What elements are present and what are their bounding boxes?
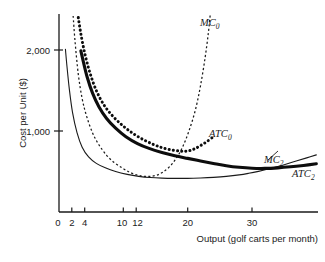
x-tick-label-10: 10 [117, 217, 128, 228]
curve-atc0 [78, 18, 213, 152]
y-axis-title: Cost per Unit ($) [17, 78, 28, 148]
x-tick-label-0: 0 [55, 217, 60, 228]
cost-curves-chart: 2,000 1,000 0 2 4 10 12 20 30 Cost per U… [0, 0, 325, 262]
x-tick-label-20: 20 [182, 217, 193, 228]
x-tick-label-30: 30 [247, 217, 258, 228]
x-axis-title: Output (golf carts per month) [197, 233, 318, 244]
chart-svg: 2,000 1,000 0 2 4 10 12 20 30 Cost per U… [0, 0, 325, 262]
curve-label-atc0: ATC0 [208, 128, 232, 142]
y-tick-label-1000: 1,000 [26, 126, 50, 137]
x-tick-label-2: 2 [69, 217, 74, 228]
curve-label-mc2: MC2 [263, 154, 284, 168]
curve-label-atc2: ATC2 [291, 168, 315, 182]
curve-atc2 [81, 51, 316, 169]
y-tick-label-2000: 2,000 [26, 45, 50, 56]
x-tick-label-12: 12 [132, 217, 143, 228]
x-tick-label-4: 4 [82, 217, 87, 228]
